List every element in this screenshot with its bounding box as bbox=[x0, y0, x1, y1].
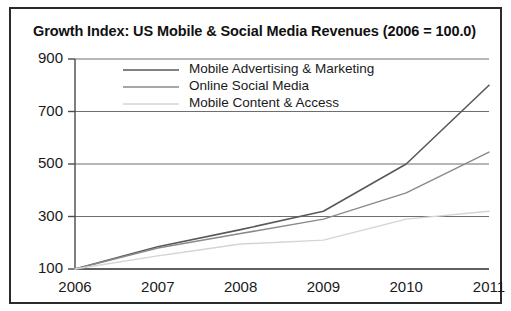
x-tick-label-2011: 2011 bbox=[459, 278, 511, 295]
series-lines-group bbox=[75, 85, 489, 269]
y-tick-label-100: 100 bbox=[15, 259, 63, 276]
legend-label-0: Mobile Advertising & Marketing bbox=[189, 61, 374, 76]
chart-figure: Growth Index: US Mobile & Social Media R… bbox=[0, 0, 511, 311]
legend-label-1: Online Social Media bbox=[189, 78, 309, 93]
y-tick-label-300: 300 bbox=[15, 207, 63, 224]
y-tick-label-900: 900 bbox=[15, 49, 63, 66]
chart-frame: Growth Index: US Mobile & Social Media R… bbox=[9, 7, 502, 304]
x-tick-label-2008: 2008 bbox=[211, 278, 271, 295]
y-tick-marks-group bbox=[68, 59, 75, 269]
y-tick-label-700: 700 bbox=[15, 102, 63, 119]
x-tick-label-2006: 2006 bbox=[45, 278, 105, 295]
line-chart-plot bbox=[11, 9, 504, 306]
legend-label-2: Mobile Content & Access bbox=[189, 95, 339, 110]
legend-swatches-group bbox=[123, 70, 179, 104]
x-tick-label-2010: 2010 bbox=[376, 278, 436, 295]
x-tick-label-2007: 2007 bbox=[128, 278, 188, 295]
x-tick-label-2009: 2009 bbox=[293, 278, 353, 295]
y-tick-label-500: 500 bbox=[15, 154, 63, 171]
